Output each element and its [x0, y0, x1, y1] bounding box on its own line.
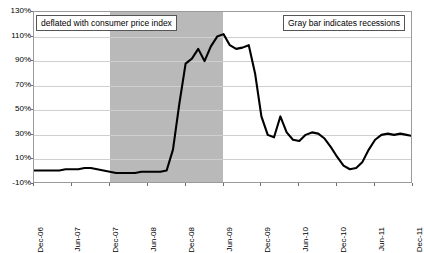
x-axis: Dec-06Jun-07Dec-07Jun-08Dec-08Jun-09Dec-… [0, 183, 420, 231]
x-axis-tick-label: Dec-06 [37, 227, 45, 253]
y-axis-tick-label: 130% [0, 7, 31, 15]
x-axis-tick-label: Dec-09 [264, 227, 272, 253]
y-axis-tick-label: 70% [0, 81, 31, 89]
x-axis-tick-mark [71, 183, 72, 186]
annotation-deflator-note: deflated with consumer price index [36, 15, 177, 31]
x-axis-tick-mark [147, 183, 148, 186]
x-axis-tick-label: Dec-11 [416, 227, 424, 252]
x-axis-tick-label: Jun-07 [74, 227, 82, 251]
x-axis-tick-mark [223, 183, 224, 186]
plot-area [33, 11, 412, 183]
x-axis-tick-label: Jun-09 [226, 227, 234, 251]
x-axis-tick-label: Jun-11 [378, 227, 386, 251]
x-axis-tick-label: Dec-10 [340, 227, 348, 253]
y-axis-tick-label: 10% [0, 154, 31, 162]
x-axis-tick-mark [298, 183, 299, 186]
y-axis-tick-label: 110% [0, 32, 31, 40]
y-axis-tick-label: 30% [0, 130, 31, 138]
x-axis-tick-label: Jun-08 [150, 227, 158, 251]
x-axis-tick-mark [260, 183, 261, 186]
y-axis-tick-label: 90% [0, 56, 31, 64]
x-axis-tick-label: Dec-07 [112, 227, 120, 253]
x-axis-tick-mark [185, 183, 186, 186]
x-axis-tick-label: Dec-08 [188, 227, 196, 253]
x-axis-tick-mark [33, 183, 34, 186]
y-axis-tick-label: 50% [0, 105, 31, 113]
x-axis-tick-label: Jun-10 [302, 227, 310, 251]
x-axis-tick-mark [412, 183, 413, 186]
x-axis-tick-mark [336, 183, 337, 186]
data-series-line [34, 12, 412, 183]
x-axis-tick-mark [109, 183, 110, 186]
x-axis-tick-mark [374, 183, 375, 186]
annotation-recession-legend: Gray bar indicates recessions [283, 15, 405, 31]
